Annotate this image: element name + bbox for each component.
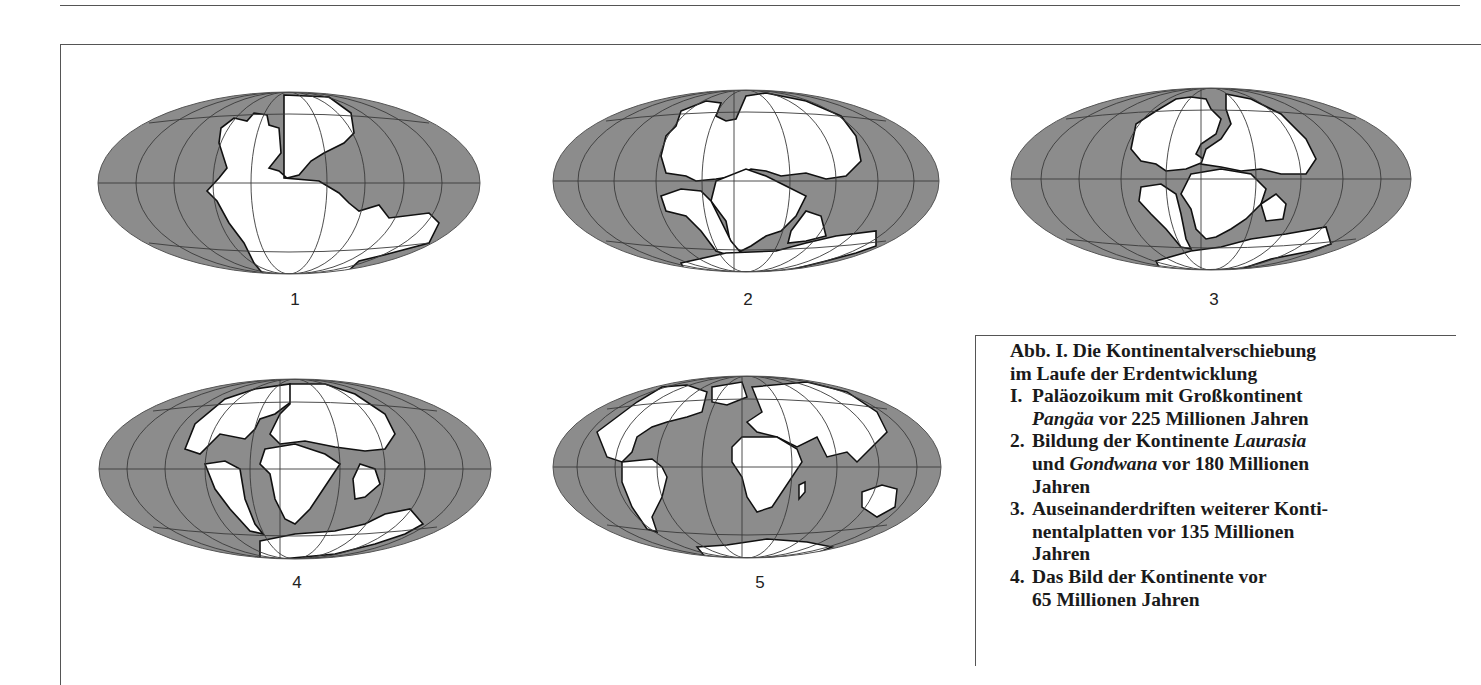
- caption-item-3-cont: nentalplatten vor 135 Millionen: [1010, 521, 1450, 544]
- globe-3-label: 3: [1209, 290, 1218, 310]
- caption-item-3-cont-2: Jahren: [1010, 543, 1450, 566]
- globe-4-label: 4: [292, 573, 301, 593]
- globe-3-continental-drift-map: [1009, 86, 1413, 272]
- caption-item-3: 3.Auseinanderdriften weiterer Konti-: [1010, 498, 1450, 521]
- globe-2-laurasia-gondwana-map: [551, 88, 941, 274]
- caption-item-4-cont: 65 Millionen Jahren: [1010, 589, 1450, 612]
- globe-1-pangaea-map: [96, 90, 482, 276]
- caption-item-1-cont: Pangäa vor 225 Millionen Jahren: [1010, 408, 1450, 431]
- caption-title-line-1: Abb. I. Die Kontinentalverschiebung: [1010, 340, 1450, 363]
- globe-1-label: 1: [290, 290, 299, 310]
- caption-item-2-cont-2: Jahren: [1010, 476, 1450, 499]
- caption-item-2: 2.Bildung der Kontinente Laurasia: [1010, 430, 1450, 453]
- caption-title-line-2: im Laufe der Erdentwicklung: [1010, 363, 1450, 386]
- globe-4-65mya-map: [97, 377, 493, 561]
- globe-5-label: 5: [755, 573, 764, 593]
- globe-5-present-day-map: [551, 374, 943, 560]
- top-rule: [60, 5, 1460, 6]
- caption-item-1: I.Paläozoikum mit Großkontinent: [1010, 385, 1450, 408]
- globe-2-label: 2: [743, 290, 752, 310]
- caption-item-2-cont: und Gondwana vor 180 Millionen: [1010, 453, 1450, 476]
- caption-item-4: 4.Das Bild der Kontinente vor: [1010, 566, 1450, 589]
- figure-caption: Abb. I. Die Kontinentalverschiebung im L…: [1010, 340, 1450, 611]
